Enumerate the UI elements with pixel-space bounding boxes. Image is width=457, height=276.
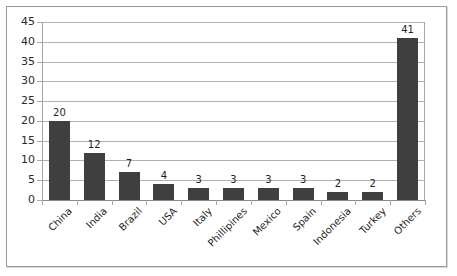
x-axis-tick-mark [181,200,182,205]
x-axis-label-italy: Italy [191,206,213,228]
x-axis-label-others: Others [392,206,423,237]
y-axis-tick-mark [37,62,42,63]
y-axis-tick-mark [37,81,42,82]
x-axis-label-turkey: Turkey [358,206,388,236]
x-axis-label-brazil: Brazil [117,206,144,233]
y-axis-tick-mark [37,160,42,161]
bar-chart-figure: 454035302520151050 20127433332241 ChinaI… [0,0,457,276]
y-axis-tick-mark [37,121,42,122]
x-axis-tick-mark [216,200,217,205]
x-axis-label-china: China [47,206,74,233]
x-axis-tick-mark [42,200,43,205]
x-axis-tick-mark [77,200,78,205]
x-axis-tick-mark [390,200,391,205]
x-axis-tick-mark [425,200,426,205]
x-axis-tick-mark [355,200,356,205]
y-axis-tick-mark [37,141,42,142]
y-axis-tick-mark [37,180,42,181]
y-axis-tick-mark [37,42,42,43]
x-axis-label-india: India [85,206,109,230]
x-axis-tick-mark [321,200,322,205]
x-axis-tick-mark [286,200,287,205]
x-axis-label-mexico: Mexico [252,206,284,238]
x-axis-tick-mark [112,200,113,205]
y-axis-tick-mark [37,22,42,23]
x-axis-label-usa: USA [157,206,179,228]
x-axis-tick-mark [146,200,147,205]
x-axis-tick-mark [251,200,252,205]
x-axis-category-labels: ChinaIndiaBrazilUSAItalyPhillipinesMexic… [0,0,457,276]
x-axis-label-spain: Spain [291,206,318,233]
y-axis-tick-mark [37,101,42,102]
